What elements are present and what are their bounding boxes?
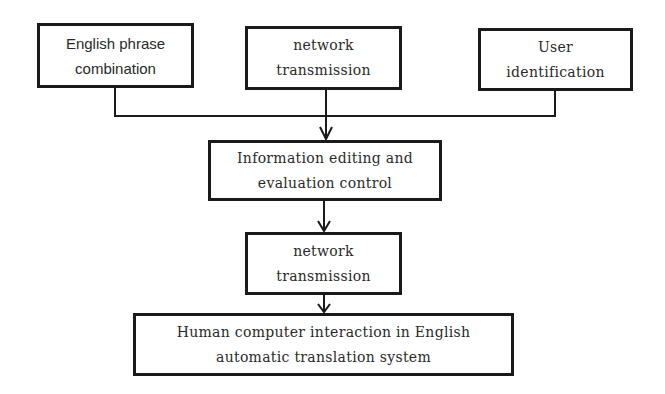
node-label-line: transmission [276,58,371,83]
node-label-line: English phrase [66,31,165,56]
node-label-line: Information editing and [237,146,413,171]
node-label-line: Human computer interaction in English [177,320,471,345]
node-information-editing: Information editing and evaluation contr… [208,140,442,201]
merge-connector [115,87,555,116]
node-network-transmission-mid: network transmission [245,232,402,295]
node-label-line: combination [75,56,156,81]
node-label-line: transmission [276,264,371,289]
node-human-computer-interaction: Human computer interaction in English au… [133,313,514,376]
node-label-line: network [293,239,354,264]
node-english-phrase-combination: English phrase combination [37,23,194,88]
node-network-transmission-top: network transmission [245,26,402,90]
node-label-line: network [293,33,354,58]
node-user-identification: User identification [478,28,633,91]
node-label-line: identification [506,60,604,85]
node-label-line: User [538,35,573,60]
node-label-line: automatic translation system [216,345,431,370]
node-label-line: evaluation control [258,171,392,196]
